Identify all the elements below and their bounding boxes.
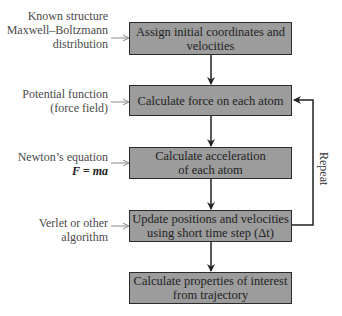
input-label-verlet: Verlet or other algorithm bbox=[39, 216, 108, 244]
step-text: Assign initial coordinates and bbox=[136, 25, 285, 39]
input-label-potential: Potential function (force field) bbox=[22, 87, 108, 115]
step-update-positions: Update positions and velocities using sh… bbox=[129, 210, 292, 242]
step-text: Calculate acceleration bbox=[155, 149, 266, 163]
step-text: of each atom bbox=[178, 163, 243, 177]
step-calculate-properties: Calculate properties of interest from tr… bbox=[129, 272, 292, 304]
step-text: using short time step (Δt) bbox=[147, 226, 274, 240]
input-label-newton: Newton’s equation F = ma bbox=[18, 150, 108, 178]
repeat-label: Repeat bbox=[316, 152, 331, 185]
equation-f-ma: F = ma bbox=[18, 164, 108, 178]
step-text: velocities bbox=[187, 39, 235, 53]
step-text: Calculate force on each atom bbox=[138, 94, 284, 108]
step-calculate-force: Calculate force on each atom bbox=[129, 85, 292, 116]
step-text: from trajectory bbox=[173, 288, 248, 302]
step-text: Update positions and velocities bbox=[132, 212, 289, 226]
step-text: Calculate properties of interest bbox=[134, 274, 288, 288]
input-label-initial: Known structure Maxwell–Boltzmann distri… bbox=[7, 9, 108, 51]
step-calculate-acceleration: Calculate acceleration of each atom bbox=[129, 147, 292, 179]
step-assign-initial: Assign initial coordinates and velocitie… bbox=[129, 22, 292, 55]
repeat-loop-arrow bbox=[292, 100, 313, 225]
